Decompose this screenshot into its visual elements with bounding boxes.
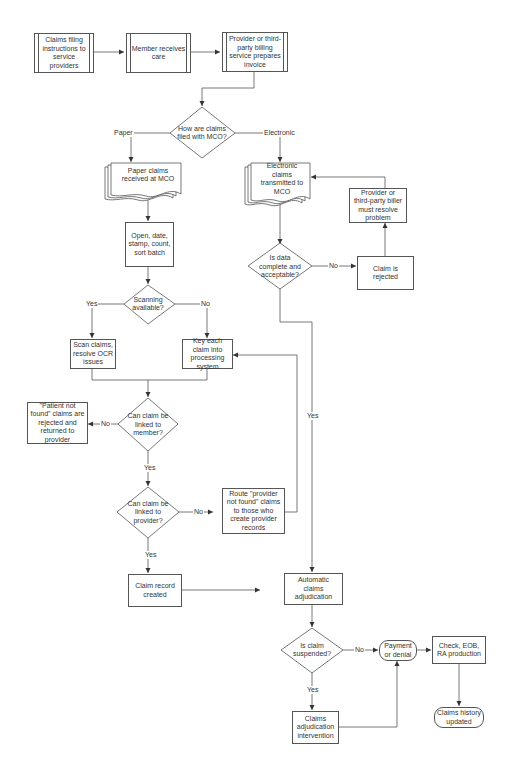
decision-data-complete: Is data complete and acceptable?: [256, 254, 304, 280]
node-text: Claim record created: [132, 582, 178, 599]
label-yes-data: Yes: [306, 412, 319, 420]
decision-linked-member: Can claim be linked to member?: [126, 411, 170, 439]
node-text: Claims filing instructions to service pr…: [38, 36, 90, 70]
node-text: Claims adjudication intervention: [294, 715, 337, 741]
node-patient-not-found: "Patient not found" claims are rejected …: [27, 402, 88, 444]
node-key-claim: Key each claim into processing system: [182, 339, 233, 369]
node-auto-adjudication: Automatic claims adjudication: [284, 573, 343, 605]
label-paper: Paper: [113, 129, 134, 137]
node-claims-filing: Claims filing instructions to service pr…: [34, 33, 94, 73]
decision-scanning: Scanning available?: [130, 295, 166, 313]
node-open-batch: Open, date, stamp, count, sort batch: [125, 222, 174, 267]
decision-linked-provider: Can claim be linked to provider?: [125, 499, 171, 526]
node-payment-denial: Payment or denial: [379, 640, 417, 661]
label-yes-suspended: Yes: [306, 686, 319, 694]
label-no-scanning: No: [200, 300, 211, 308]
node-text: Claim is rejected: [361, 265, 410, 282]
doc-electronic-transmitted: Electronic claims transmitted to MCO: [256, 165, 308, 193]
label-yes-provider: Yes: [144, 551, 157, 559]
node-route-provider: Route "provider not found" claims to tho…: [222, 488, 285, 534]
node-text: Payment or denial: [381, 642, 415, 659]
node-text: Provider or third-party biller must reso…: [353, 189, 403, 223]
node-text: Open, date, stamp, count, sort batch: [127, 232, 172, 258]
node-check-eob: Check, EOB, RA production: [432, 636, 486, 664]
node-adjudication-intervention: Claims adjudication intervention: [292, 711, 339, 744]
node-text: Claims history updated: [436, 709, 482, 726]
node-text: Member receives care: [130, 45, 187, 62]
node-text: Automatic claims adjudication: [288, 576, 339, 602]
node-claim-record: Claim record created: [128, 574, 182, 607]
label-no-member: No: [100, 420, 111, 428]
decision-how-filed: How are claims filed with MCO?: [176, 121, 228, 145]
node-history-updated: Claims history updated: [434, 707, 484, 728]
label-electronic: Electronic: [263, 129, 296, 137]
node-provider-invoice: Provider or third-party billing service …: [222, 32, 288, 72]
node-text: Route "provider not found" claims to tho…: [224, 490, 283, 533]
label-no-provider: No: [193, 508, 204, 516]
node-text: Check, EOB, RA production: [434, 642, 484, 659]
node-member-care: Member receives care: [126, 33, 191, 73]
node-text: Provider or third-party billing service …: [226, 35, 284, 69]
node-text: Scan claims, resolve OCR issues: [72, 341, 114, 367]
node-text: Key each claim into processing system: [184, 337, 231, 371]
label-yes-scanning: Yes: [85, 300, 98, 308]
doc-paper-received: Paper claims received at MCO: [118, 165, 178, 185]
label-no-suspended: No: [354, 646, 365, 654]
decision-claim-suspended: Is claim suspended?: [290, 640, 334, 660]
node-claim-rejected: Claim is rejected: [357, 256, 414, 290]
label-yes-member: Yes: [143, 464, 156, 472]
node-provider-resolve: Provider or third-party biller must reso…: [349, 188, 407, 223]
node-scan-claims: Scan claims, resolve OCR issues: [70, 339, 116, 369]
node-text: "Patient not found" claims are rejected …: [29, 402, 86, 445]
label-no-data: No: [328, 262, 339, 270]
